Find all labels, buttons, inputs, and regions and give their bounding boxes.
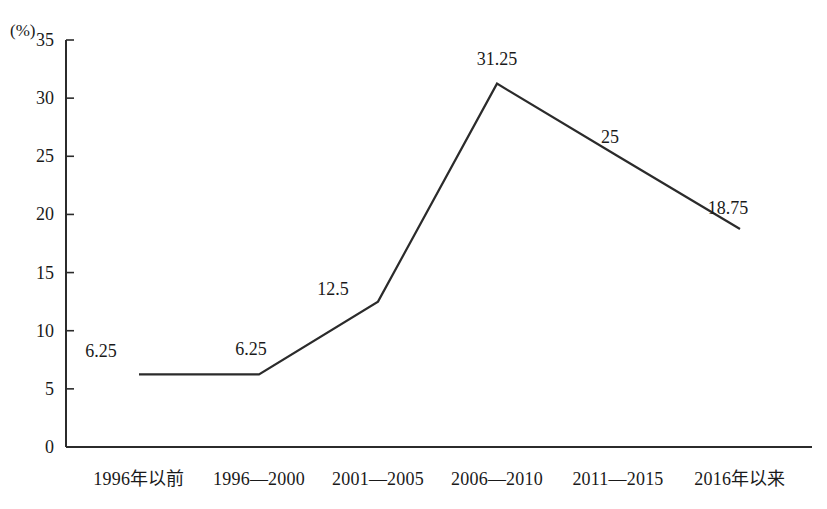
y-axis-tick-label: 25 [14, 147, 54, 165]
y-axis-tick-label: 5 [14, 380, 54, 398]
line-chart: (%) 05101520253035 1996年以前1996—20002001—… [0, 0, 827, 509]
y-axis-tick-label: 20 [14, 205, 54, 223]
data-point-label: 6.25 [61, 342, 141, 360]
y-axis-tick-label: 0 [14, 438, 54, 456]
y-axis-tick-label: 30 [14, 89, 54, 107]
x-axis-tick-label: 2016年以来 [665, 470, 815, 488]
data-point-label: 18.75 [688, 199, 768, 217]
y-axis-tick-label: 10 [14, 322, 54, 340]
data-point-label: 25 [570, 128, 650, 146]
axis-ticks [66, 40, 74, 389]
axes [66, 40, 812, 447]
data-point-label: 6.25 [211, 340, 291, 358]
data-point-label: 12.5 [293, 280, 373, 298]
y-axis-tick-label: 15 [14, 264, 54, 282]
y-axis-tick-label: 35 [14, 31, 54, 49]
data-point-label: 31.25 [457, 50, 537, 68]
chart-canvas [0, 0, 827, 509]
data-series-line [139, 84, 740, 375]
